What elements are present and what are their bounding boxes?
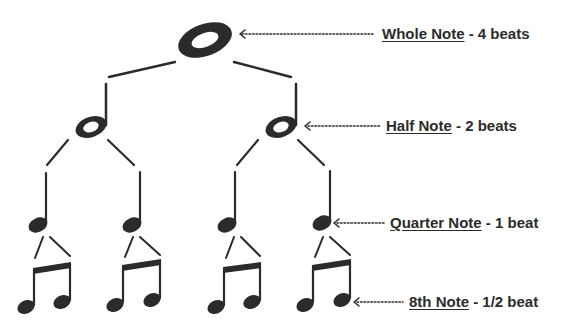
quarter-note-label: Quarter Note - 1 beat — [390, 214, 538, 232]
connector-line — [35, 237, 43, 258]
quarter-note-icon — [215, 172, 239, 236]
whole-note-label: Whole Note - 4 beats — [382, 25, 530, 43]
quarter-note-icon — [310, 171, 334, 234]
label-separator: - — [469, 293, 482, 310]
connector-line — [237, 140, 258, 165]
half-note-label: Half Note - 2 beats — [386, 117, 517, 135]
quarter-note-icon — [120, 172, 144, 236]
connector-line — [315, 237, 323, 257]
connector-line — [226, 237, 234, 258]
label-name: Whole Note — [382, 25, 465, 42]
beamed-eighth-notes-icon — [294, 259, 353, 315]
label-name: 8th Note — [409, 293, 469, 310]
connector-line — [234, 62, 291, 77]
label-value: 4 beats — [478, 25, 530, 42]
label-separator: - — [465, 25, 478, 42]
half-note-icon — [73, 84, 110, 142]
eighth-note-label: 8th Note - 1/2 beat — [409, 293, 538, 311]
beamed-eighth-notes-icon — [205, 262, 263, 317]
label-value: 1 beat — [495, 214, 538, 231]
connector-line — [47, 140, 68, 165]
label-name: Quarter Note — [390, 214, 482, 231]
label-separator: - — [452, 117, 465, 134]
connector-line — [125, 237, 133, 257]
connector-line — [298, 140, 324, 165]
connector-line — [140, 237, 160, 255]
half-note-icon — [263, 84, 300, 142]
connector-line — [108, 140, 134, 165]
note-tree-diagram — [0, 0, 587, 334]
connector-line — [50, 237, 70, 256]
beamed-eighth-notes-icon — [104, 259, 163, 315]
whole-note-icon — [173, 15, 237, 64]
connector-line — [241, 237, 260, 256]
beamed-eighth-notes-icon — [15, 262, 73, 317]
label-value: 1/2 beat — [482, 293, 538, 310]
label-value: 2 beats — [465, 117, 517, 134]
quarter-note-icon — [26, 173, 50, 236]
label-separator: - — [482, 214, 495, 231]
connector-line — [330, 237, 350, 255]
connector-line — [109, 62, 175, 77]
label-name: Half Note — [386, 117, 452, 134]
